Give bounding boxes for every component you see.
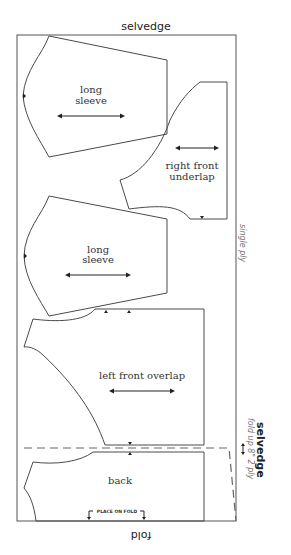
bottom-fold-label: fold [131,529,152,542]
notch-icon [127,310,131,313]
piece-label-line2: sleeve [75,95,107,106]
notch-icon [24,253,27,259]
fabric-frame [17,35,236,521]
notch-icon [104,310,108,313]
piece-label: back [108,475,133,486]
piece-long-sleeve-middle: long sleeve [24,196,167,316]
cutting-layout-diagram: selvedge long sleeve right front underla… [0,0,291,555]
grainline-arrow-icon [175,146,219,151]
piece-label-line1: right front [166,160,219,171]
piece-back: back PLACE ON FOLD [24,452,204,521]
piece-label-line1: long [80,84,103,95]
piece-label-line1: left front overlap [99,370,185,381]
grainline-arrow-icon [57,114,125,119]
piece-long-sleeve-top: long sleeve [23,36,167,157]
piece-label-line2: sleeve [82,254,114,265]
top-selvedge-label: selvedge [121,20,171,33]
fold-up-arrow-icon [241,443,245,455]
piece-right-front-underlap: right front underlap [120,82,227,219]
piece-left-front-overlap: left front overlap [24,309,204,445]
piece-label-line2: underlap [169,171,215,182]
place-on-fold-label: PLACE ON FOLD [97,509,138,514]
notch-icon [23,93,26,99]
fold-up-note: fold up 8" 2 ply [246,418,255,479]
single-ply-note: single ply [238,224,247,263]
grainline-arrow-icon [65,273,131,278]
grainline-arrow-icon [109,389,175,394]
